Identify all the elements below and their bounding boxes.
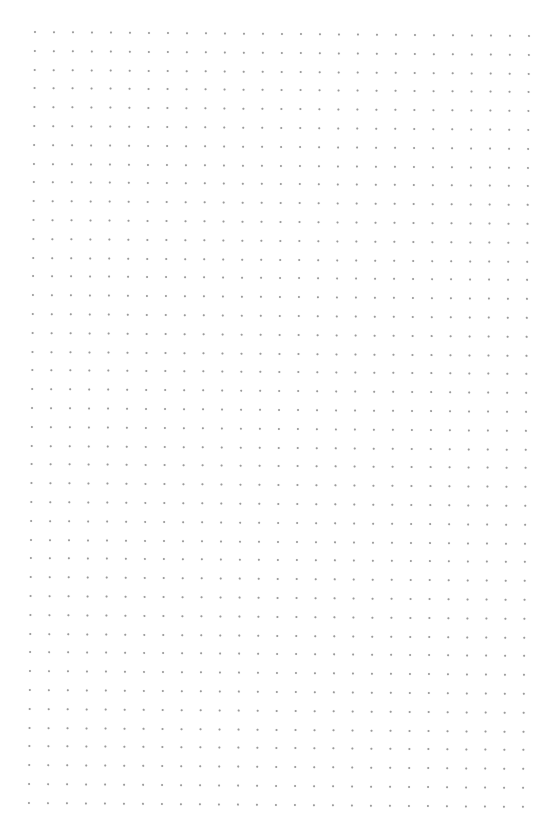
grid-dot bbox=[316, 372, 318, 374]
grid-dot bbox=[66, 783, 68, 785]
grid-dot bbox=[432, 203, 434, 205]
grid-dot bbox=[450, 241, 452, 243]
grid-dot bbox=[352, 616, 354, 618]
grid-dot bbox=[238, 709, 240, 711]
grid-dot bbox=[313, 804, 315, 806]
grid-dot bbox=[429, 504, 431, 506]
grid-dot bbox=[261, 146, 263, 148]
grid-dot bbox=[220, 559, 222, 561]
grid-dot bbox=[218, 766, 220, 768]
grid-dot bbox=[147, 107, 149, 109]
grid-dot bbox=[67, 633, 69, 635]
grid-dot bbox=[318, 202, 320, 204]
grid-dot bbox=[337, 165, 339, 167]
grid-dot bbox=[70, 238, 72, 240]
grid-dot bbox=[221, 352, 223, 354]
grid-dot bbox=[200, 653, 202, 655]
grid-dot bbox=[429, 579, 431, 581]
grid-dot bbox=[239, 559, 241, 561]
grid-dot bbox=[240, 446, 242, 448]
grid-dot bbox=[489, 129, 491, 131]
grid-dot bbox=[86, 689, 88, 691]
grid-dot bbox=[276, 616, 278, 618]
grid-dot bbox=[527, 223, 529, 225]
grid-dot bbox=[66, 802, 68, 804]
grid-dot bbox=[392, 447, 394, 449]
grid-dot bbox=[278, 390, 280, 392]
grid-dot bbox=[353, 541, 355, 543]
grid-dot bbox=[124, 727, 126, 729]
grid-dot bbox=[357, 52, 359, 54]
grid-dot bbox=[376, 52, 378, 54]
grid-dot bbox=[295, 672, 297, 674]
grid-dot bbox=[162, 709, 164, 711]
grid-dot bbox=[337, 146, 339, 148]
grid-dot bbox=[394, 109, 396, 111]
grid-dot bbox=[145, 351, 147, 353]
grid-dot bbox=[53, 88, 55, 90]
grid-dot bbox=[353, 598, 355, 600]
grid-dot bbox=[142, 765, 144, 767]
grid-dot bbox=[449, 448, 451, 450]
grid-dot bbox=[33, 125, 35, 127]
grid-dot bbox=[143, 615, 145, 617]
grid-dot bbox=[486, 580, 488, 582]
grid-dot bbox=[469, 260, 471, 262]
grid-dot bbox=[144, 502, 146, 504]
grid-dot bbox=[393, 259, 395, 261]
grid-dot bbox=[371, 692, 373, 694]
grid-dot bbox=[30, 557, 32, 559]
grid-dot bbox=[336, 259, 338, 261]
grid-dot bbox=[525, 392, 527, 394]
grid-dot bbox=[86, 671, 88, 673]
grid-dot bbox=[67, 727, 69, 729]
grid-dot bbox=[504, 655, 506, 657]
grid-dot bbox=[335, 466, 337, 468]
grid-dot bbox=[162, 690, 164, 692]
grid-dot bbox=[509, 35, 511, 37]
grid-dot bbox=[429, 523, 431, 525]
grid-dot bbox=[32, 275, 34, 277]
grid-dot bbox=[123, 784, 125, 786]
grid-dot bbox=[242, 221, 244, 223]
grid-dot bbox=[356, 146, 358, 148]
grid-dot bbox=[467, 580, 469, 582]
grid-dot bbox=[354, 391, 356, 393]
grid-dot bbox=[487, 448, 489, 450]
grid-dot bbox=[277, 541, 279, 543]
grid-dot bbox=[203, 333, 205, 335]
grid-dot bbox=[467, 598, 469, 600]
grid-dot bbox=[241, 315, 243, 317]
grid-dot bbox=[238, 615, 240, 617]
grid-dot bbox=[394, 184, 396, 186]
grid-dot bbox=[508, 129, 510, 131]
grid-dot bbox=[167, 51, 169, 53]
grid-dot bbox=[88, 407, 90, 409]
grid-dot bbox=[410, 579, 412, 581]
grid-dot bbox=[242, 145, 244, 147]
grid-dot bbox=[257, 672, 259, 674]
grid-dot bbox=[527, 166, 529, 168]
grid-dot bbox=[29, 651, 31, 653]
grid-dot bbox=[70, 313, 72, 315]
grid-dot bbox=[408, 805, 410, 807]
grid-dot bbox=[278, 428, 280, 430]
grid-dot bbox=[317, 296, 319, 298]
grid-dot bbox=[48, 633, 50, 635]
grid-dot bbox=[240, 409, 242, 411]
grid-dot bbox=[489, 110, 491, 112]
grid-dot bbox=[471, 53, 473, 55]
grid-dot bbox=[373, 353, 375, 355]
grid-dot bbox=[33, 106, 35, 108]
grid-dot bbox=[486, 505, 488, 507]
grid-dot bbox=[314, 616, 316, 618]
grid-dot bbox=[523, 712, 525, 714]
grid-dot bbox=[259, 390, 261, 392]
grid-dot bbox=[432, 109, 434, 111]
grid-dot bbox=[144, 577, 146, 579]
grid-dot bbox=[220, 578, 222, 580]
grid-dot bbox=[30, 576, 32, 578]
grid-dot bbox=[318, 146, 320, 148]
grid-dot bbox=[104, 746, 106, 748]
grid-dot bbox=[71, 163, 73, 165]
